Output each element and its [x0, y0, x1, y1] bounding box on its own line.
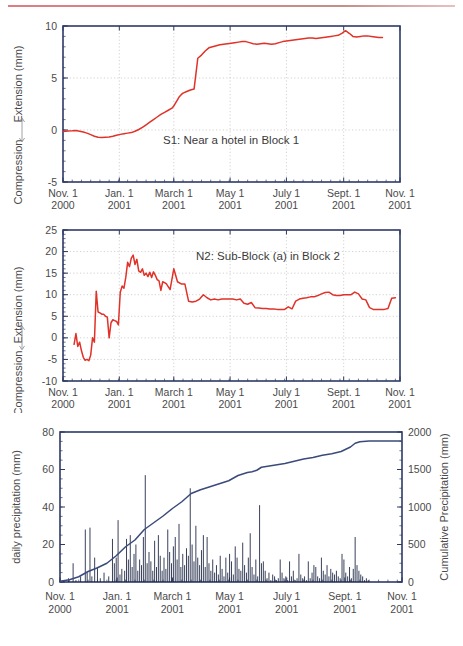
x-tick-month: Nov. 1 [45, 590, 75, 602]
y-tick-label-right: 0 [408, 576, 414, 588]
data-trace [74, 255, 395, 361]
x-tick-month: Sept. 1 [327, 386, 360, 398]
x-tick-year: 2001 [218, 603, 242, 615]
x-tick-month: July 1 [273, 187, 301, 199]
y-tick-label: 10 [45, 288, 57, 300]
x-tick-year: 2001 [218, 199, 242, 211]
y-tick-label: -5 [48, 353, 57, 365]
x-tick-month: Nov. 1 [385, 187, 415, 199]
y-tick-label-left: 80 [42, 426, 54, 438]
chart-title: N2: Sub-Block (a) in Block 2 [196, 250, 340, 262]
x-tick-month: July 1 [273, 590, 301, 602]
x-tick-month: Nov. 1 [48, 187, 78, 199]
y-tick-label: 5 [51, 72, 57, 84]
chart-title: S1: Near a hotel in Block 1 [163, 134, 299, 146]
x-tick-month: Sept. 1 [328, 590, 361, 602]
y-axis-title-extension: Extension (mm) [12, 45, 24, 122]
x-tick-year: 2000 [51, 199, 75, 211]
x-tick-year: 2001 [388, 398, 412, 410]
y-tick-label-right: 1500 [408, 463, 432, 475]
y-axis-title-daily-precipitation: daily precipitation (mm) [10, 450, 22, 564]
x-tick-year: 2001 [162, 398, 186, 410]
page-top-rule [8, 5, 455, 7]
x-tick-month: Nov. 1 [385, 386, 415, 398]
x-tick-month: March 1 [153, 590, 191, 602]
x-tick-year: 2001 [108, 199, 132, 211]
y-tick-label: -10 [42, 375, 57, 387]
x-tick-year: 2001 [388, 199, 412, 211]
y-tick-label-left: 60 [42, 463, 54, 475]
y-tick-label-right: 2000 [408, 426, 432, 438]
x-tick-year: 2001 [390, 603, 414, 615]
x-tick-month: May 1 [216, 386, 245, 398]
x-tick-month: Jan. 1 [105, 187, 134, 199]
y-tick-label: 10 [45, 20, 57, 32]
x-tick-month: Nov. 1 [48, 386, 78, 398]
y-tick-label-left: 40 [42, 501, 54, 513]
y-tick-label: 20 [45, 245, 57, 257]
x-tick-year: 2000 [48, 603, 72, 615]
x-tick-year: 2001 [218, 398, 242, 410]
x-tick-year: 2001 [108, 398, 132, 410]
x-tick-month: Nov. 1 [387, 590, 417, 602]
x-tick-year: 2001 [162, 199, 186, 211]
x-tick-year: 2001 [333, 603, 357, 615]
x-tick-month: Sept. 1 [327, 187, 360, 199]
x-tick-year: 2001 [275, 199, 299, 211]
y-tick-label: 25 [45, 224, 57, 236]
x-tick-year: 2001 [332, 199, 356, 211]
data-trace [63, 31, 382, 138]
y-tick-label-left: 20 [42, 538, 54, 550]
x-tick-month: July 1 [273, 386, 301, 398]
x-tick-month: March 1 [155, 386, 193, 398]
x-tick-month: May 1 [215, 590, 244, 602]
x-tick-month: March 1 [155, 187, 193, 199]
chart-panel-s1: -50510Nov. 12000Jan. 12001March 12001May… [0, 12, 463, 212]
y-tick-label: 15 [45, 267, 57, 279]
x-tick-year: 2001 [332, 398, 356, 410]
y-tick-label: 5 [51, 310, 57, 322]
chart-panel-precipitation: 0204060800500100015002000Nov. 12000Jan. … [0, 420, 463, 646]
x-tick-year: 2000 [51, 398, 75, 410]
x-tick-month: May 1 [216, 187, 245, 199]
x-tick-year: 2001 [105, 603, 129, 615]
x-tick-month: Jan. 1 [105, 386, 134, 398]
y-tick-label: 0 [51, 331, 57, 343]
x-tick-year: 2001 [161, 603, 185, 615]
y-tick-label: -5 [48, 176, 57, 188]
x-tick-month: Jan. 1 [103, 590, 132, 602]
cumulative-precipitation-line [60, 441, 402, 581]
y-axis-title-compression: Compression [12, 140, 24, 205]
chart-panel-n2: -10-50510152025Nov. 12000Jan. 12001March… [0, 213, 463, 413]
x-tick-year: 2001 [275, 603, 299, 615]
y-axis-title-cumulative-precipitation: Cumulative Precipitation (mm) [438, 433, 450, 580]
y-axis-title-compression: Compression [12, 351, 24, 413]
y-tick-label-right: 500 [408, 538, 426, 550]
y-tick-label-left: 0 [48, 576, 54, 588]
daily-precipitation-bars [64, 475, 369, 582]
y-tick-label-right: 1000 [408, 501, 432, 513]
y-tick-label: 0 [51, 124, 57, 136]
x-tick-year: 2001 [275, 398, 299, 410]
